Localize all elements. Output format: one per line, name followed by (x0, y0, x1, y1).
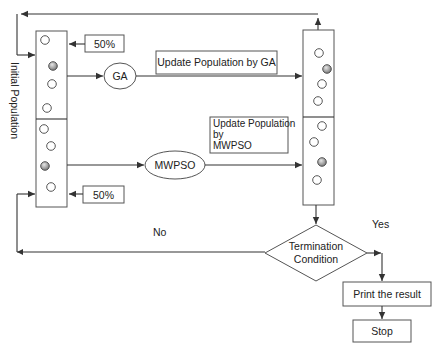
yes-branch (367, 253, 382, 281)
stop-box: Stop (353, 320, 411, 342)
svg-text:GA: GA (112, 70, 127, 82)
svg-text:by: by (213, 129, 224, 140)
svg-text:50%: 50% (93, 189, 114, 201)
particle-icon (47, 142, 56, 151)
update-box-ga: Update Population by GA (156, 51, 277, 74)
particle-icon (43, 104, 52, 113)
particle-icon (315, 49, 324, 58)
svg-text:Condition: Condition (294, 253, 339, 265)
share-box-lower: 50% (69, 186, 124, 203)
particle-best-icon (49, 62, 58, 71)
updated-population-column (303, 30, 334, 205)
svg-text:MWPSO: MWPSO (213, 140, 252, 151)
particle-best-icon (41, 162, 50, 171)
yes-label: Yes (372, 218, 389, 230)
particle-best-icon (323, 65, 332, 74)
particle-icon (48, 80, 57, 89)
svg-text:Update Population: Update Population (213, 118, 295, 129)
particle-icon (318, 80, 327, 89)
print-result-box: Print the result (343, 282, 431, 306)
svg-text:Stop: Stop (371, 325, 393, 337)
initial-population-column (36, 31, 67, 207)
particle-icon (40, 125, 49, 134)
particle-icon (310, 138, 319, 147)
particle-icon (314, 97, 323, 106)
particle-best-icon (318, 158, 327, 167)
initial-population-label: Initial Population (9, 62, 21, 139)
particle-icon (41, 36, 50, 45)
flowchart-canvas: Initial Population 50% 50% GA (0, 0, 434, 353)
svg-text:Print the result: Print the result (353, 288, 421, 300)
svg-text:Update Population by GA: Update Population by GA (157, 56, 276, 68)
svg-text:Termination: Termination (289, 240, 343, 252)
particle-icon (313, 176, 322, 185)
svg-text:MWPSO: MWPSO (155, 159, 196, 171)
particle-icon (318, 122, 327, 131)
termination-decision: Termination Condition (265, 225, 367, 281)
mwpso-branch: MWPSO (67, 151, 302, 179)
update-box-mwpso: Update Population by MWPSO (210, 117, 295, 153)
share-box-upper: 50% (69, 35, 124, 52)
svg-text:50%: 50% (94, 38, 115, 50)
particle-icon (47, 183, 56, 192)
no-label: No (153, 226, 167, 238)
